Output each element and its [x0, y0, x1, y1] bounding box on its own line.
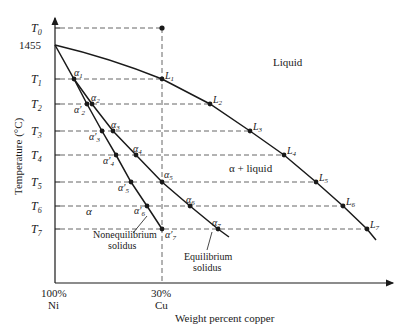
svg-text:L4: L4 — [286, 145, 297, 158]
isotherm-lines — [60, 28, 367, 229]
svg-text:α′2: α′2 — [74, 104, 85, 117]
svg-text:α′7: α′7 — [165, 229, 176, 242]
svg-text:L6: L6 — [345, 196, 356, 209]
liquidus-curve — [55, 45, 376, 240]
svg-text:L2: L2 — [212, 94, 223, 107]
svg-text:α′4: α′4 — [103, 155, 114, 168]
region-two-phase-label: α + liquid — [229, 162, 273, 174]
svg-text:α′5: α′5 — [118, 182, 129, 195]
phase-diagram: T0 1455 T1 T2 T3 T4 T5 T6 T7 Temperature… — [0, 0, 409, 334]
svg-text:L5: L5 — [318, 172, 329, 185]
svg-text:T2: T2 — [31, 97, 42, 113]
svg-text:T3: T3 — [31, 124, 42, 140]
svg-text:30%: 30% — [151, 287, 171, 299]
svg-text:T5: T5 — [31, 175, 42, 191]
svg-text:T7: T7 — [31, 222, 43, 238]
nonequilibrium-annotation-line2: solidus — [108, 240, 136, 251]
svg-text:T4: T4 — [31, 148, 42, 164]
svg-text:T0: T0 — [31, 21, 42, 37]
svg-text:1455: 1455 — [19, 39, 42, 51]
x-tick-labels: 100% Ni 30% Cu — [41, 287, 171, 311]
svg-text:α6: α6 — [186, 194, 195, 207]
svg-text:L3: L3 — [252, 121, 263, 134]
region-liquid-label: Liquid — [273, 56, 303, 68]
equilibrium-annotation-line2: solidus — [193, 262, 221, 273]
equilibrium-annotation-line1: Equilibrium — [184, 251, 233, 262]
svg-text:T1: T1 — [31, 72, 42, 88]
svg-text:L7: L7 — [369, 219, 380, 232]
equilibrium-pointer — [207, 232, 212, 250]
svg-text:α′6: α′6 — [134, 205, 145, 218]
liquidus-point-labels: L1 L2 L3 L4 L5 L6 L7 — [164, 70, 380, 232]
y-axis-title: Temperature (°C) — [12, 117, 25, 195]
svg-text:Cu: Cu — [155, 299, 168, 311]
svg-text:100%: 100% — [41, 287, 67, 299]
nonequilibrium-annotation-line1: Nonequilibrium — [93, 229, 157, 240]
svg-text:T6: T6 — [31, 199, 42, 215]
y-ticks — [55, 28, 60, 229]
x-axis-title: Weight percent copper — [175, 312, 275, 324]
svg-text:α′3: α′3 — [89, 131, 100, 144]
svg-text:α5: α5 — [164, 169, 173, 182]
svg-text:Ni: Ni — [48, 299, 59, 311]
svg-text:α7: α7 — [212, 217, 221, 230]
region-alpha-label: α — [86, 205, 92, 217]
